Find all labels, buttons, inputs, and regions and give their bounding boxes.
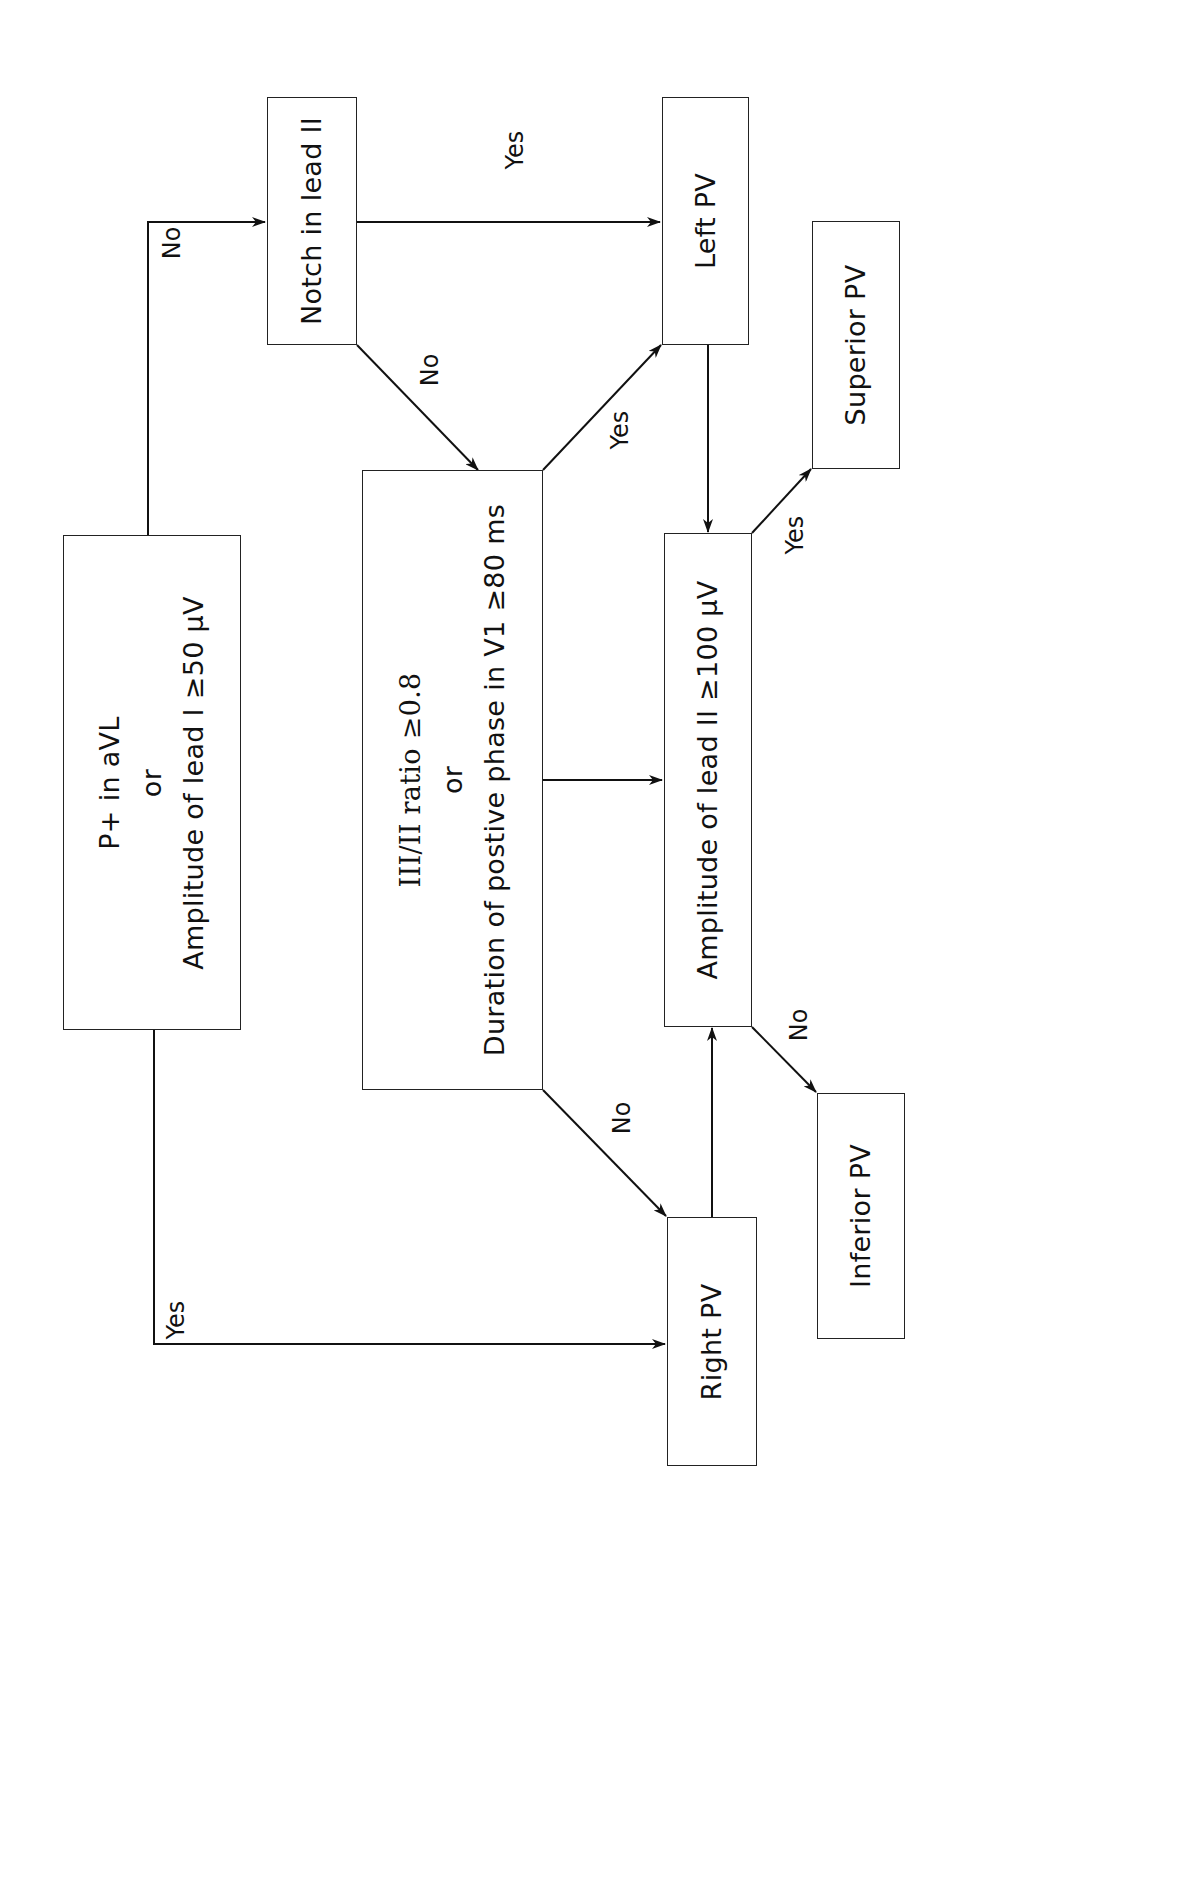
node-right-pv: Right PV (667, 1217, 757, 1466)
edge-ratio-to-left-pv (543, 345, 661, 470)
edge-start-to-notch (148, 222, 265, 535)
start-line-3: Amplitude of lead I ≥50 μV (173, 596, 215, 970)
node-notch-lead-ii: Notch in lead II (267, 97, 357, 345)
superior-pv-label: Superior PV (835, 265, 877, 426)
notch-label: Notch in lead II (291, 117, 333, 325)
edge-label-ratio-no: No (608, 1102, 636, 1135)
edge-label-start-no: No (158, 227, 186, 260)
ratio-line-2: or (432, 504, 474, 1056)
node-ratio-criteria: III/II ratio ≥0.8 or Duration of postive… (362, 470, 543, 1090)
inferior-pv-label: Inferior PV (840, 1144, 882, 1288)
start-line-1: P+ in aVL (89, 596, 131, 970)
node-start-criteria: P+ in aVL or Amplitude of lead I ≥50 μV (63, 535, 241, 1030)
edge-label-notch-no: No (416, 354, 444, 387)
right-pv-label: Right PV (691, 1283, 733, 1400)
node-left-pv: Left PV (662, 97, 749, 345)
node-superior-pv: Superior PV (812, 221, 900, 469)
left-pv-label: Left PV (685, 173, 727, 269)
start-line-2: or (131, 596, 173, 970)
ratio-line-3: Duration of postive phase in V1 ≥80 ms (473, 504, 515, 1056)
edge-ratio-to-right-pv (543, 1090, 666, 1216)
amplitude-ii-label: Amplitude of lead II ≥100 μV (687, 580, 729, 979)
edge-label-amp-yes: Yes (781, 516, 809, 555)
node-inferior-pv: Inferior PV (817, 1093, 905, 1339)
node-amplitude-lead-ii: Amplitude of lead II ≥100 μV (664, 533, 752, 1027)
edge-label-amp-no: No (785, 1009, 813, 1042)
ratio-line-1: III/II ratio ≥0.8 (390, 504, 432, 1056)
edge-label-ratio-yes: Yes (606, 411, 634, 450)
edge-label-start-yes: Yes (162, 1301, 190, 1340)
edge-label-notch-yes: Yes (501, 131, 529, 170)
